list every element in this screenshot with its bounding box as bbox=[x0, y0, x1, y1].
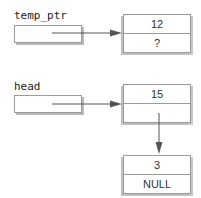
arrowhead-icon bbox=[110, 30, 122, 37]
arrows bbox=[0, 0, 201, 198]
arrowhead-icon bbox=[110, 101, 122, 108]
arrowhead-icon bbox=[156, 142, 163, 154]
